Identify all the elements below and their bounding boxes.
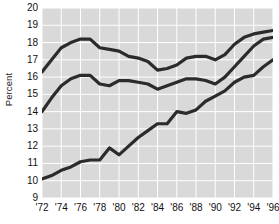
line-chart: Percent 91011121314151617181920 '72'74'7… — [0, 0, 279, 224]
x-tick-label: '94 — [247, 203, 260, 213]
plot-svg — [42, 8, 273, 198]
x-tick-label: '72 — [35, 203, 48, 213]
x-tick-label: '80 — [112, 203, 125, 213]
x-tick-label: '96 — [266, 203, 279, 213]
x-tick-label: '78 — [93, 203, 106, 213]
x-tick-label: '86 — [170, 203, 183, 213]
x-tick-label: '88 — [189, 203, 202, 213]
x-tick-label: '92 — [228, 203, 241, 213]
x-tick-label: '90 — [209, 203, 222, 213]
x-tick-label: '82 — [132, 203, 145, 213]
x-tick-label: '74 — [55, 203, 68, 213]
x-tick-label: '76 — [74, 203, 87, 213]
x-tick-label: '84 — [151, 203, 164, 213]
gridlines — [42, 8, 273, 198]
plot-area — [42, 8, 273, 198]
